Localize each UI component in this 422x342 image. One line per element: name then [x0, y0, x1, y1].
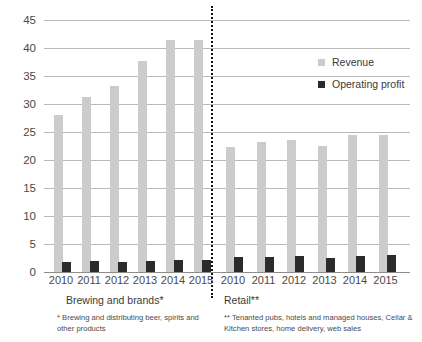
y-axis-tick-label: 20	[23, 154, 36, 166]
y-axis-tick-label: 25	[23, 126, 36, 138]
bar-group	[188, 20, 218, 272]
bar-revenue	[166, 40, 175, 272]
bar-revenue	[82, 97, 91, 272]
footnote-retail: ** Tenanted pubs, hotels and managed hou…	[224, 312, 420, 334]
bar-revenue	[110, 86, 119, 272]
x-axis-tick-label: 2011	[77, 274, 101, 286]
bar-operating-profit	[295, 256, 304, 272]
gridline	[44, 272, 410, 273]
bar-group	[132, 20, 162, 272]
bar-revenue	[379, 135, 388, 272]
bar-group	[76, 20, 106, 272]
caption-retail: Retail**	[224, 294, 259, 306]
bar-revenue	[318, 146, 327, 272]
x-axis-tick-label: 2011	[252, 274, 276, 286]
bar-operating-profit	[387, 255, 396, 272]
y-axis-tick-label: 0	[30, 266, 36, 278]
x-axis-tick-label: 2014	[161, 274, 185, 286]
bar-operating-profit	[202, 260, 211, 272]
legend-swatch-operating-profit-icon	[318, 81, 325, 88]
bar-operating-profit	[90, 261, 99, 272]
bar-revenue	[138, 61, 147, 272]
x-axis-tick-label: 2015	[373, 274, 397, 286]
bar-revenue	[226, 147, 235, 272]
x-axis-labels: 2010201120122013201420152010201120122013…	[44, 274, 410, 290]
bar-operating-profit	[234, 257, 243, 272]
chart-container: 051015202530354045 201020112012201320142…	[0, 0, 422, 342]
legend-item-revenue: Revenue	[318, 56, 404, 68]
bar-group	[48, 20, 78, 272]
legend-label-revenue: Revenue	[332, 56, 374, 68]
segment-divider	[211, 6, 213, 298]
x-axis-tick-label: 2013	[133, 274, 157, 286]
legend-item-operating-profit: Operating profit	[318, 78, 404, 90]
bar-operating-profit	[356, 256, 365, 272]
bar-revenue	[287, 140, 296, 272]
chart-legend: Revenue Operating profit	[318, 56, 404, 100]
x-axis-tick-label: 2012	[105, 274, 129, 286]
x-axis-tick-label: 2010	[49, 274, 73, 286]
bar-group	[220, 20, 250, 272]
x-axis-tick-label: 2015	[189, 274, 213, 286]
bar-group	[104, 20, 134, 272]
y-axis-tick-label: 45	[23, 14, 36, 26]
caption-brewing-and-brands: Brewing and brands*	[66, 294, 163, 306]
y-axis-tick-label: 5	[30, 238, 36, 250]
bar-operating-profit	[265, 257, 274, 272]
footnote-brewing: * Brewing and distributing beer, spirits…	[57, 312, 212, 334]
bar-operating-profit	[326, 258, 335, 272]
bar-group	[281, 20, 311, 272]
y-axis-tick-label: 35	[23, 70, 36, 82]
bar-revenue	[257, 142, 266, 272]
bar-revenue	[194, 40, 203, 272]
bar-operating-profit	[118, 262, 127, 272]
y-axis-tick-label: 40	[23, 42, 36, 54]
x-axis-tick-label: 2014	[343, 274, 367, 286]
y-axis-tick-label: 10	[23, 210, 36, 222]
legend-swatch-revenue-icon	[318, 59, 325, 66]
bar-group	[251, 20, 281, 272]
legend-label-operating-profit: Operating profit	[332, 78, 404, 90]
bar-operating-profit	[146, 261, 155, 272]
bar-operating-profit	[62, 262, 71, 272]
y-axis-labels: 051015202530354045	[0, 20, 40, 272]
bar-revenue	[348, 135, 357, 272]
bar-revenue	[54, 115, 63, 272]
y-axis-tick-label: 30	[23, 98, 36, 110]
y-axis-tick-label: 15	[23, 182, 36, 194]
x-axis-tick-label: 2010	[221, 274, 245, 286]
bar-operating-profit	[174, 260, 183, 272]
x-axis-tick-label: 2013	[312, 274, 336, 286]
x-axis-tick-label: 2012	[282, 274, 306, 286]
bar-group	[160, 20, 190, 272]
